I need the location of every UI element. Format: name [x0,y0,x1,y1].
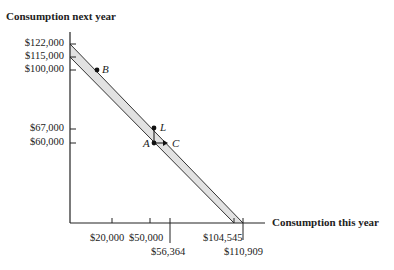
y-tick-label: $115,000 [0,50,64,61]
x-tick-label: $50,000 [129,232,163,243]
point-label-b: B [102,63,109,75]
x-tick-label: $20,000 [90,232,124,243]
point-label-a: A [143,137,150,149]
x-tick-label: $104,545 [203,232,242,243]
x-tick-label: $110,909 [224,246,263,257]
lower-budget-line [70,57,234,223]
x-tick-label: $56,364 [151,246,185,257]
y-tick-label: $67,000 [0,122,64,133]
y-axis-title: Consumption next year [6,10,116,22]
point-b [95,68,100,73]
y-tick-label: $60,000 [0,136,64,147]
y-tick-label: $122,000 [0,37,64,48]
point-label-c: C [172,137,179,149]
point-label-l: L [160,121,166,133]
x-axis-title: Consumption this year [272,216,379,228]
y-tick-label: $100,000 [0,63,64,74]
